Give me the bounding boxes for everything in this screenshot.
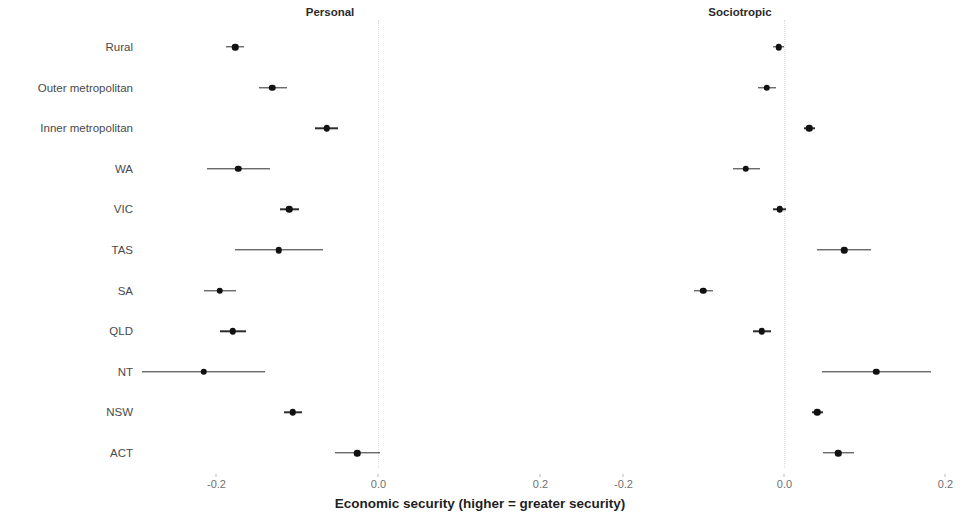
estimate-point[interactable] bbox=[229, 328, 236, 335]
estimate-point[interactable] bbox=[269, 84, 276, 91]
estimate-point[interactable] bbox=[835, 450, 842, 457]
estimate-point[interactable] bbox=[276, 247, 283, 254]
x-tick-label: 0.2 bbox=[533, 478, 548, 490]
estimate-point[interactable] bbox=[814, 409, 821, 416]
y-axis-label-inner-metropolitan: Inner metropolitan bbox=[40, 122, 133, 134]
panel-sociotropic: -0.20.00.2 bbox=[587, 0, 960, 470]
y-axis-label-rural: Rural bbox=[106, 41, 133, 53]
x-tick-label: 0.0 bbox=[777, 478, 792, 490]
estimate-point[interactable] bbox=[776, 44, 783, 51]
estimate-point[interactable] bbox=[873, 369, 880, 376]
y-axis-label-qld: QLD bbox=[109, 325, 133, 337]
estimate-point[interactable] bbox=[354, 450, 361, 457]
estimate-point[interactable] bbox=[743, 166, 750, 173]
x-axis-title: Economic security (higher = greater secu… bbox=[0, 496, 960, 511]
x-tick-mark bbox=[623, 474, 624, 477]
panel-title-sociotropic: Sociotropic bbox=[708, 6, 771, 18]
estimate-point[interactable] bbox=[289, 409, 296, 416]
x-tick-mark bbox=[216, 474, 217, 477]
panel-title-personal: Personal bbox=[306, 6, 355, 18]
estimate-point[interactable] bbox=[700, 287, 707, 294]
panel-personal: -0.20.00.2 bbox=[180, 0, 585, 470]
x-tick-mark bbox=[945, 474, 946, 477]
x-tick-mark bbox=[540, 474, 541, 477]
x-tick-mark bbox=[378, 474, 379, 477]
y-axis-category-labels: RuralOuter metropolitanInner metropolita… bbox=[0, 0, 133, 519]
zero-reference-line-sociotropic bbox=[784, 20, 786, 468]
estimate-point[interactable] bbox=[806, 125, 813, 132]
estimate-point[interactable] bbox=[216, 287, 223, 294]
estimate-point[interactable] bbox=[286, 206, 293, 213]
coefficient-plot-figure: RuralOuter metropolitanInner metropolita… bbox=[0, 0, 960, 519]
estimate-point[interactable] bbox=[232, 44, 239, 51]
estimate-point[interactable] bbox=[759, 328, 766, 335]
estimate-point[interactable] bbox=[841, 247, 848, 254]
estimate-point[interactable] bbox=[200, 369, 207, 376]
y-axis-label-vic: VIC bbox=[114, 203, 133, 215]
y-axis-label-act: ACT bbox=[110, 447, 133, 459]
y-axis-label-nsw: NSW bbox=[106, 406, 133, 418]
estimate-point[interactable] bbox=[323, 125, 330, 132]
y-axis-label-wa: WA bbox=[115, 163, 133, 175]
x-tick-label: -0.2 bbox=[207, 478, 226, 490]
zero-reference-line-personal bbox=[378, 20, 380, 468]
x-tick-label: -0.2 bbox=[614, 478, 633, 490]
x-tick-mark bbox=[784, 474, 785, 477]
y-axis-label-nt: NT bbox=[118, 366, 133, 378]
estimate-point[interactable] bbox=[764, 84, 771, 91]
y-axis-label-tas: TAS bbox=[111, 244, 133, 256]
x-tick-label: 0.0 bbox=[371, 478, 386, 490]
estimate-point[interactable] bbox=[776, 206, 783, 213]
estimate-point[interactable] bbox=[235, 166, 242, 173]
x-tick-label: 0.2 bbox=[938, 478, 953, 490]
y-axis-label-outer-metropolitan: Outer metropolitan bbox=[38, 82, 133, 94]
y-axis-label-sa: SA bbox=[118, 285, 133, 297]
